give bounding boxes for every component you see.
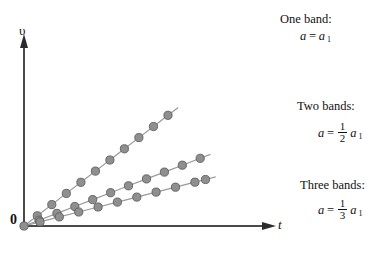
fraction-denominator: 3 xyxy=(338,209,348,221)
data-point xyxy=(55,213,63,221)
data-point xyxy=(91,167,99,175)
data-point xyxy=(94,203,102,211)
data-point xyxy=(164,111,172,119)
data-point xyxy=(36,218,44,226)
data-point xyxy=(107,189,115,197)
origin-label: 0 xyxy=(10,212,17,228)
data-point xyxy=(142,175,150,183)
data-point xyxy=(89,196,97,204)
x-axis-arrowhead xyxy=(262,222,276,230)
equation-tail: a xyxy=(350,126,356,141)
series-equation-three-bands: a = 1 3 a1 xyxy=(318,199,362,222)
series-label-three-bands: Three bands: xyxy=(300,178,365,193)
equation-variable: a xyxy=(318,203,324,218)
equation-tail: a xyxy=(319,29,325,44)
data-point xyxy=(171,183,179,191)
data-point xyxy=(77,178,85,186)
equation-subscript: 1 xyxy=(358,209,362,218)
series-label-one-band: One band: xyxy=(280,12,332,27)
fraction-denominator: 2 xyxy=(338,132,348,144)
y-axis-label: υ xyxy=(19,23,25,39)
series-equation-two-bands: a = 1 2 a1 xyxy=(318,122,362,145)
fraction-numerator: 1 xyxy=(338,198,348,209)
data-point xyxy=(113,198,121,206)
data-point xyxy=(178,161,186,169)
fraction-numerator: 1 xyxy=(338,121,348,132)
data-point xyxy=(124,182,132,190)
fraction-one-third: 1 3 xyxy=(338,198,348,221)
equation-variable: a xyxy=(318,126,324,141)
equation-tail: a xyxy=(350,203,356,218)
data-point xyxy=(149,122,157,130)
equation-subscript: 1 xyxy=(358,132,362,141)
axes xyxy=(20,34,276,230)
data-point xyxy=(62,189,70,197)
data-point xyxy=(120,145,128,153)
equation-equals: = xyxy=(308,29,316,44)
equation-subscript: 1 xyxy=(327,35,331,44)
equation-equals: = xyxy=(326,203,334,218)
data-point xyxy=(201,175,209,183)
data-point xyxy=(196,154,204,162)
equation-equals: = xyxy=(326,126,334,141)
data-point xyxy=(160,168,168,176)
series-equation-one-band: a = a1 xyxy=(300,29,331,44)
fraction-one-half: 1 2 xyxy=(338,121,348,144)
data-point xyxy=(106,156,114,164)
data-point xyxy=(135,134,143,142)
data-point xyxy=(133,193,141,201)
equation-variable: a xyxy=(300,29,306,44)
series-label-two-bands: Two bands: xyxy=(297,99,355,114)
data-point-origin xyxy=(20,222,28,230)
series-markers xyxy=(20,111,210,230)
data-point xyxy=(75,208,83,216)
data-point xyxy=(152,188,160,196)
data-point xyxy=(191,178,199,186)
x-axis-label: t xyxy=(278,217,282,233)
data-point xyxy=(48,201,56,209)
